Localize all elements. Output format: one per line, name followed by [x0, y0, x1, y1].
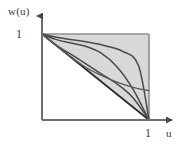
y-axis-tick-label-one: 1 — [16, 28, 22, 40]
x-axis-label: u — [166, 128, 172, 139]
x-axis-tick-label-one: 1 — [145, 127, 151, 139]
plot-canvas — [0, 0, 184, 145]
y-axis-label: w(u) — [8, 6, 30, 17]
figure-container: w(u) 1 1 u — [0, 0, 184, 145]
